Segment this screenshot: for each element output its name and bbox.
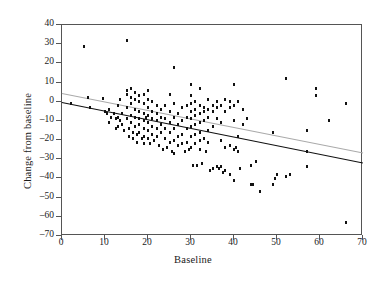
data-point	[138, 123, 140, 126]
data-point	[216, 100, 218, 103]
data-point	[147, 121, 149, 124]
data-point	[143, 142, 145, 145]
data-point	[136, 141, 138, 144]
data-point	[108, 121, 110, 124]
data-point	[212, 104, 214, 107]
data-point	[160, 108, 162, 111]
data-point	[272, 131, 274, 134]
data-point	[315, 87, 317, 90]
scatter-plot-figure: Change from baseline Baseline 403020100–…	[0, 0, 386, 282]
data-point	[173, 102, 175, 105]
data-point	[147, 137, 149, 140]
data-point	[128, 127, 130, 130]
data-point	[328, 119, 330, 122]
data-point	[132, 137, 134, 140]
data-point	[166, 146, 168, 149]
y-axis-tick-mark	[56, 82, 62, 83]
data-point	[156, 135, 158, 138]
data-point	[220, 139, 222, 142]
data-point	[235, 146, 237, 149]
data-point	[237, 135, 239, 138]
data-point	[173, 116, 175, 119]
data-point	[181, 133, 183, 136]
data-point	[285, 175, 287, 178]
data-point	[138, 100, 140, 103]
x-axis-tick-mark	[61, 235, 62, 240]
data-point	[233, 83, 235, 86]
data-point	[164, 137, 166, 140]
data-point	[220, 104, 222, 107]
data-point	[117, 104, 119, 107]
data-point	[212, 110, 214, 113]
data-point	[224, 146, 226, 149]
data-point	[164, 127, 166, 130]
data-point	[153, 139, 155, 142]
data-point	[190, 94, 192, 97]
y-axis-tick-label: 30	[45, 38, 55, 48]
data-point	[110, 116, 112, 119]
data-point	[147, 89, 149, 92]
data-point	[199, 121, 201, 124]
data-point	[186, 141, 188, 144]
y-axis-tick-label: –40	[40, 173, 54, 183]
data-point	[138, 131, 140, 134]
data-point	[216, 117, 218, 120]
data-point	[126, 39, 128, 42]
data-point	[169, 121, 171, 124]
data-point	[156, 112, 158, 115]
data-point	[169, 93, 171, 96]
y-axis-tick-mark	[56, 177, 62, 178]
data-point	[237, 150, 239, 153]
data-point	[181, 119, 183, 122]
data-point	[194, 123, 196, 126]
data-point	[199, 112, 201, 115]
data-point	[216, 106, 218, 109]
data-point	[143, 119, 145, 122]
data-point	[126, 93, 128, 96]
data-point	[246, 117, 248, 120]
data-point	[224, 110, 226, 113]
y-axis-tick-mark	[56, 158, 62, 159]
data-point	[194, 108, 196, 111]
data-point	[134, 125, 136, 128]
y-axis-tick-mark	[56, 101, 62, 102]
data-point	[306, 129, 308, 132]
data-point	[143, 135, 145, 138]
data-point	[138, 117, 140, 120]
x-axis-tick-mark	[190, 235, 191, 240]
data-point	[237, 100, 239, 103]
data-point	[130, 121, 132, 124]
x-axis-tick-mark	[104, 235, 105, 240]
data-point	[199, 104, 201, 107]
x-axis-tick-mark	[147, 235, 148, 240]
data-point	[207, 141, 209, 144]
x-axis-tick-mark	[233, 235, 234, 240]
y-axis-tick-label: –30	[40, 154, 54, 164]
data-point	[162, 148, 164, 151]
data-point	[158, 144, 160, 147]
data-point	[151, 110, 153, 113]
data-point	[134, 116, 136, 119]
data-point	[233, 104, 235, 107]
data-point	[138, 110, 140, 113]
data-point	[102, 97, 104, 100]
data-point	[259, 190, 261, 193]
data-point	[252, 183, 254, 186]
data-point	[151, 100, 153, 103]
data-point	[164, 117, 166, 120]
y-axis-label: Change from baseline	[22, 61, 33, 221]
data-point	[126, 89, 128, 92]
data-point	[128, 135, 130, 138]
y-axis-tick-label: –50	[40, 192, 54, 202]
data-point	[130, 87, 132, 90]
data-point	[272, 183, 274, 186]
data-point	[147, 98, 149, 101]
y-axis-tick-label: 10	[45, 77, 55, 87]
data-point	[113, 112, 115, 115]
data-point	[196, 164, 198, 167]
data-point	[151, 117, 153, 120]
data-point	[199, 148, 201, 151]
x-axis-tick-mark	[362, 235, 363, 240]
plot-area	[61, 24, 362, 235]
data-point	[156, 104, 158, 107]
